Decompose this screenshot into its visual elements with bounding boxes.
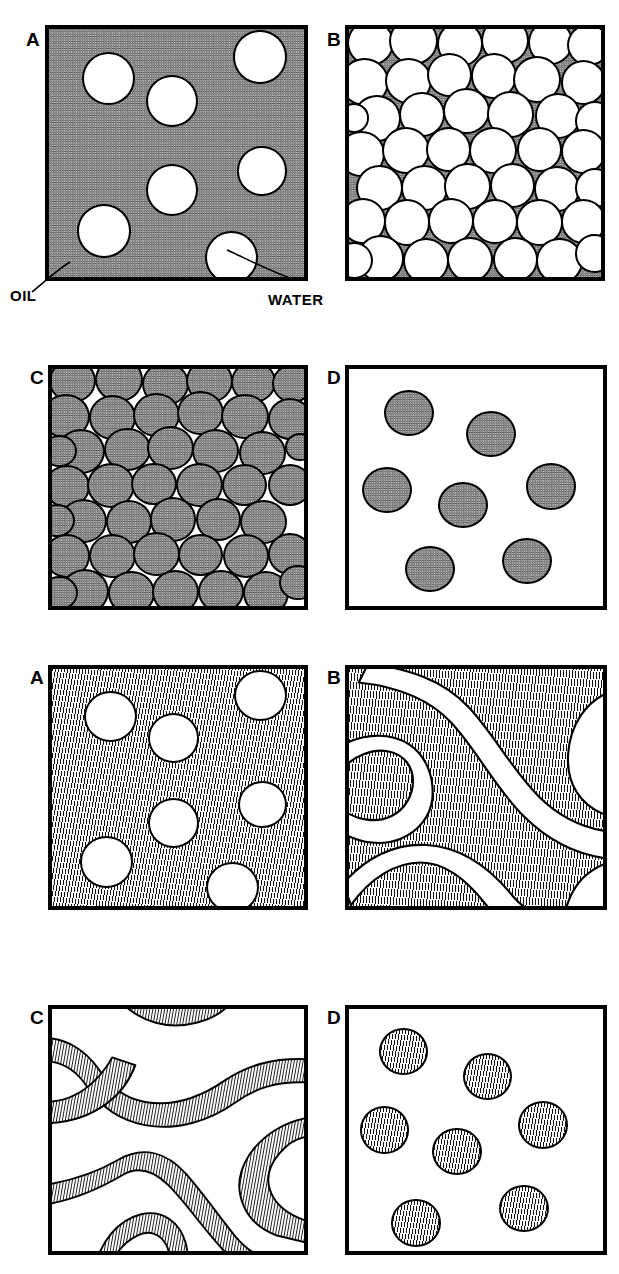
- panel-3b-matrix: [349, 669, 603, 906]
- panel-label-2d: D: [327, 368, 341, 387]
- water-leader-line: [225, 240, 320, 285]
- droplet: [438, 482, 488, 528]
- water-label: WATER: [268, 292, 324, 307]
- droplet: [206, 862, 259, 906]
- droplet: [403, 238, 449, 277]
- droplet: [447, 237, 493, 277]
- droplet: [198, 570, 243, 606]
- droplet: [148, 713, 199, 763]
- droplet: [518, 1101, 568, 1148]
- droplet: [152, 570, 198, 606]
- droplet: [146, 75, 198, 127]
- droplet: [268, 464, 304, 506]
- droplet: [526, 463, 576, 509]
- panel-2d-matrix: [349, 369, 603, 606]
- droplet: [234, 670, 287, 721]
- panel-4c-bicontinuous-minority-hatched: [48, 1005, 308, 1255]
- panel-label-2c: C: [30, 368, 44, 387]
- droplet: [84, 691, 137, 742]
- droplet: [432, 1128, 482, 1175]
- droplet: [238, 781, 287, 828]
- droplet: [80, 836, 133, 887]
- droplet: [360, 1106, 410, 1153]
- droplet: [146, 164, 198, 216]
- panel-label-1b: B: [327, 30, 341, 49]
- panel-1b-concentrated-oil-continuous-emulsion: [345, 25, 605, 281]
- droplet: [237, 146, 286, 196]
- panel-label-3b: B: [327, 668, 341, 687]
- droplet: [502, 538, 552, 584]
- droplet: [285, 433, 304, 461]
- droplet: [362, 467, 412, 513]
- droplet: [493, 237, 538, 277]
- droplet: [379, 1028, 429, 1075]
- bicontinuous-channels-4c: [52, 1009, 304, 1251]
- panel-label-4d: D: [327, 1008, 341, 1027]
- bicontinuous-channels-3b: [349, 669, 603, 906]
- droplet: [82, 52, 136, 106]
- panel-2d-dilute-water-continuous-emulsion: [345, 365, 607, 610]
- droplet: [148, 798, 199, 848]
- emulsion-figure: A OIL WATER B C D: [0, 0, 619, 1274]
- droplet: [384, 390, 434, 436]
- panel-1b-matrix: [349, 29, 601, 277]
- droplet: [463, 1053, 513, 1100]
- panel-2c-matrix: [52, 369, 304, 606]
- droplet: [391, 1199, 441, 1246]
- droplet: [466, 411, 516, 457]
- panel-label-3a: A: [30, 668, 44, 687]
- panel-4d-hatched-dilute-droplets-on-white: [345, 1005, 607, 1255]
- oil-leader-line: [30, 250, 100, 295]
- droplet: [405, 546, 455, 592]
- panel-label-1a: A: [26, 30, 40, 49]
- panel-label-4c: C: [30, 1008, 44, 1027]
- panel-3a-hatched-dilute-droplet-dispersion: [48, 665, 308, 910]
- droplet: [233, 30, 287, 84]
- panel-3a-matrix: [52, 669, 304, 906]
- panel-2c-concentrated-water-continuous-emulsion: [48, 365, 308, 610]
- panel-4d-matrix: [349, 1009, 603, 1251]
- droplet: [499, 1185, 549, 1232]
- panel-4c-matrix: [52, 1009, 304, 1251]
- panel-3b-bicontinuous-majority-hatched: [345, 665, 607, 910]
- oil-label: OIL: [10, 288, 37, 303]
- droplet: [108, 571, 154, 606]
